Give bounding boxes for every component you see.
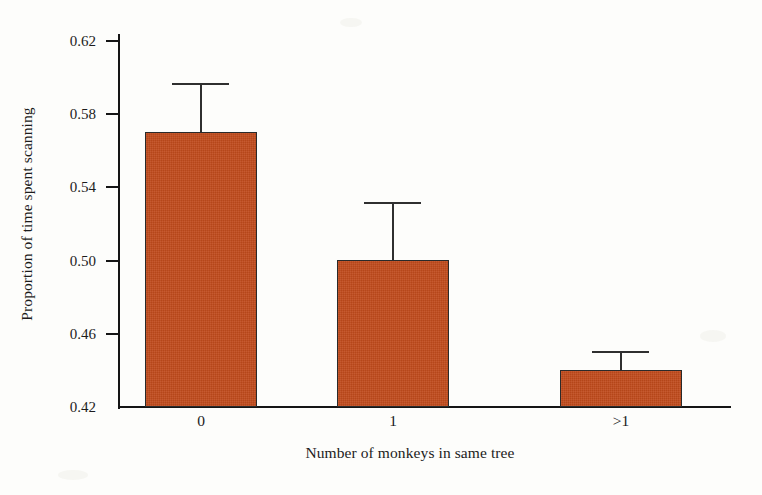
error-bar-whisker-0: [200, 84, 202, 132]
error-bar-whisker-1: [392, 203, 394, 260]
bar-category-1[interactable]: [337, 260, 449, 407]
y-axis-tick-0.62: 0.62: [106, 40, 119, 42]
y-axis-tick-0.54: 0.54: [106, 186, 119, 188]
y-axis-tick-0.50: 0.50: [106, 260, 119, 262]
y-axis-line: [118, 34, 120, 409]
bar-category-gt1[interactable]: [560, 370, 682, 407]
paper-blotch: [340, 18, 362, 27]
y-axis-tick-label: 0.62: [70, 34, 106, 49]
bar-category-0[interactable]: [145, 132, 257, 407]
y-axis-tick-label: 0.42: [70, 400, 106, 415]
bar-chart-figure: Proportion of time spent scanning 0.62 0…: [0, 0, 762, 495]
y-axis-tick-0.46: 0.46: [106, 333, 119, 335]
y-axis-tick-0.42: 0.42: [106, 406, 119, 408]
y-axis-tick-label: 0.54: [70, 180, 106, 195]
x-axis-tick-label-gt1: >1: [581, 412, 661, 431]
y-axis-tick-label: 0.46: [70, 327, 106, 342]
y-axis-tick-label: 0.50: [70, 254, 106, 269]
error-bar-cap-gt1: [592, 351, 649, 353]
x-axis-tick-label-0: 0: [161, 412, 241, 431]
error-bar-cap-1: [364, 202, 421, 204]
y-axis-label: Proportion of time spent scanning: [14, 4, 40, 424]
x-axis-label: Number of monkeys in same tree: [160, 444, 660, 462]
paper-blotch: [700, 330, 726, 342]
error-bar-whisker-gt1: [620, 352, 622, 370]
error-bar-cap-0: [172, 83, 229, 85]
paper-blotch: [58, 470, 88, 480]
x-axis-tick-label-1: 1: [353, 412, 433, 431]
y-axis-tick-0.58: 0.58: [106, 113, 119, 115]
y-axis-tick-label: 0.58: [70, 107, 106, 122]
